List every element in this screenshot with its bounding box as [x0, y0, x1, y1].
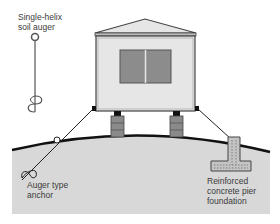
- support-pier-right: [170, 111, 183, 137]
- window-icon: [120, 50, 171, 83]
- manufactured-home: [92, 19, 199, 111]
- diagram-canvas: Single-helix soil auger Auger type ancho…: [0, 0, 280, 224]
- label-soil-auger: Single-helix soil auger: [18, 12, 62, 32]
- soil-auger-icon: [28, 34, 42, 113]
- label-auger-anchor: Auger type anchor: [27, 180, 68, 200]
- support-pier-left: [111, 111, 124, 137]
- label-pier-foundation: Reinforced concrete pier foundation: [207, 176, 256, 206]
